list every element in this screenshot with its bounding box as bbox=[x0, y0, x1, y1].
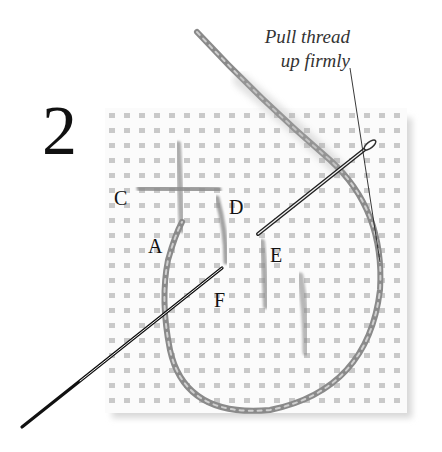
point-label-d: D bbox=[229, 197, 243, 217]
stitch-diagram: 2 Pull thread up firmly C D A E F bbox=[0, 0, 442, 452]
point-label-a: A bbox=[148, 236, 162, 256]
point-label-c: C bbox=[114, 188, 127, 208]
diagram-illustration bbox=[0, 0, 442, 452]
point-label-f: F bbox=[214, 290, 225, 310]
callout-line-1: Pull thread bbox=[265, 26, 350, 47]
point-label-e: E bbox=[270, 245, 282, 265]
callout-text: Pull thread up firmly bbox=[230, 26, 350, 76]
step-number: 2 bbox=[42, 96, 77, 166]
callout-line-2: up firmly bbox=[281, 50, 350, 71]
